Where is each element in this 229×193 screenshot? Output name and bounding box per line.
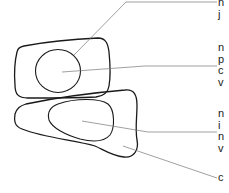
leader-line-2 xyxy=(62,66,217,72)
label-1: n j xyxy=(218,0,224,20)
label-4: c xyxy=(218,172,224,184)
label-3-line-4: v xyxy=(218,143,224,155)
leader-line-3 xyxy=(82,121,217,132)
label-2-line-1: n xyxy=(218,42,224,54)
label-3: n i n v xyxy=(218,108,224,154)
leader-line-1 xyxy=(74,2,217,55)
leader-line-4 xyxy=(123,146,217,178)
upper-cell-outline xyxy=(15,38,111,98)
label-3-line-1: n xyxy=(218,108,224,120)
label-2-line-3: c xyxy=(218,65,224,77)
label-2-line-4: v xyxy=(218,77,224,89)
label-1-line-2: j xyxy=(218,9,224,21)
label-4-line-1: c xyxy=(218,172,224,184)
label-2: n p c v xyxy=(218,42,224,88)
lower-nucleus-outline xyxy=(48,100,113,141)
label-3-line-3: n xyxy=(218,131,224,143)
cell-diagram xyxy=(0,0,229,193)
